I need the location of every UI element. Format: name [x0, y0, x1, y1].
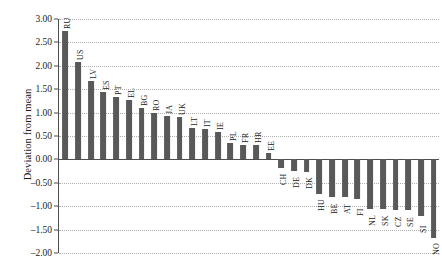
- bar-group[interactable]: AT: [338, 19, 351, 253]
- bar-group[interactable]: CZ: [389, 19, 402, 253]
- bar-group[interactable]: SI: [415, 19, 428, 253]
- bar-group[interactable]: NL: [364, 19, 377, 253]
- y-axis-tick-label: 1.50: [20, 84, 52, 94]
- bar[interactable]: [291, 159, 297, 171]
- bar[interactable]: [342, 159, 348, 196]
- bar-group[interactable]: BG: [135, 19, 148, 253]
- bar-group[interactable]: BE: [326, 19, 339, 253]
- bar-group[interactable]: DE: [288, 19, 301, 253]
- bar[interactable]: [278, 159, 284, 167]
- y-axis-tick-mark: [54, 19, 58, 20]
- bar-group[interactable]: LV: [84, 19, 97, 253]
- bar-group[interactable]: IE: [211, 19, 224, 253]
- bar-group[interactable]: RO: [148, 19, 161, 253]
- bar[interactable]: [164, 116, 170, 159]
- bar-group[interactable]: PT: [110, 19, 123, 253]
- bar[interactable]: [240, 145, 246, 160]
- bar-group[interactable]: NO: [427, 19, 440, 253]
- bar[interactable]: [177, 117, 183, 160]
- bar[interactable]: [202, 129, 208, 160]
- y-axis-tick-label: 0.00: [20, 154, 52, 164]
- bar-group[interactable]: RU: [59, 19, 72, 253]
- y-axis-tick-label: –0.50: [20, 178, 52, 188]
- y-axis-tick-mark: [54, 206, 58, 207]
- bar[interactable]: [189, 128, 195, 160]
- y-axis-tick-mark: [54, 229, 58, 230]
- y-axis-tick-mark: [54, 42, 58, 43]
- y-axis-tick-mark: [54, 89, 58, 90]
- bar-group[interactable]: HU: [313, 19, 326, 253]
- bar-group[interactable]: EE: [262, 19, 275, 253]
- chart-figure: Deviation from mean 3.002.502.001.501.00…: [0, 0, 442, 269]
- bar-group[interactable]: SE: [402, 19, 415, 253]
- bar[interactable]: [62, 31, 68, 160]
- bar[interactable]: [126, 100, 132, 159]
- bar[interactable]: [88, 81, 94, 160]
- y-axis-tick-mark: [54, 112, 58, 113]
- bar-group[interactable]: LT: [186, 19, 199, 253]
- y-axis-tick-label: –1.50: [20, 225, 52, 235]
- y-axis-tick-mark: [54, 253, 58, 254]
- bars-layer: RUUSLVESPTELBGROJAUKLTITIEPLFRHREECHDEDK…: [59, 19, 439, 253]
- y-axis-tick-label: 1.00: [20, 108, 52, 118]
- bar[interactable]: [266, 153, 272, 159]
- bar[interactable]: [329, 159, 335, 196]
- bar[interactable]: [418, 159, 424, 216]
- bar[interactable]: [393, 159, 399, 210]
- y-axis-tick-labels: 3.002.502.001.501.000.500.00–0.50–1.00–1…: [20, 0, 52, 269]
- y-axis-tick-label: 3.00: [20, 14, 52, 24]
- bar[interactable]: [228, 143, 234, 160]
- bar-group[interactable]: EL: [123, 19, 136, 253]
- y-axis-tick-label: –2.00: [20, 248, 52, 258]
- bar[interactable]: [101, 92, 107, 160]
- bar[interactable]: [405, 159, 411, 210]
- bar-group[interactable]: HR: [250, 19, 263, 253]
- bar[interactable]: [75, 62, 81, 160]
- y-axis-tick-label: 2.50: [20, 37, 52, 47]
- y-axis-tick-mark: [54, 136, 58, 137]
- bar-group[interactable]: UK: [173, 19, 186, 253]
- y-axis-tick-mark: [54, 65, 58, 66]
- bar[interactable]: [151, 113, 157, 160]
- bar-group[interactable]: ES: [97, 19, 110, 253]
- bar-group[interactable]: CH: [275, 19, 288, 253]
- bar[interactable]: [380, 159, 386, 208]
- bar[interactable]: [304, 159, 310, 172]
- bar[interactable]: [139, 108, 145, 159]
- bar-group[interactable]: SK: [377, 19, 390, 253]
- bar[interactable]: [316, 159, 322, 194]
- bar[interactable]: [253, 145, 259, 159]
- plot-area: RUUSLVESPTELBGROJAUKLTITIEPLFRHREECHDEDK…: [58, 19, 439, 253]
- bar-group[interactable]: IT: [199, 19, 212, 253]
- bar-category-label: NO: [432, 243, 441, 255]
- bar[interactable]: [355, 159, 361, 199]
- bar-group[interactable]: FI: [351, 19, 364, 253]
- bar[interactable]: [215, 132, 221, 159]
- y-axis-tick-label: 2.00: [20, 61, 52, 71]
- bar-group[interactable]: PL: [224, 19, 237, 253]
- bar-group[interactable]: US: [72, 19, 85, 253]
- bar[interactable]: [367, 159, 373, 208]
- y-axis-tick-mark: [54, 159, 58, 160]
- bar[interactable]: [113, 97, 119, 159]
- bar-group[interactable]: FR: [237, 19, 250, 253]
- gridline: [59, 253, 439, 254]
- y-axis-tick-mark: [54, 182, 58, 183]
- bar-group[interactable]: DK: [300, 19, 313, 253]
- y-axis-tick-label: –1.00: [20, 201, 52, 211]
- y-axis-tick-label: 0.50: [20, 131, 52, 141]
- bar-group[interactable]: JA: [161, 19, 174, 253]
- bar[interactable]: [431, 159, 437, 237]
